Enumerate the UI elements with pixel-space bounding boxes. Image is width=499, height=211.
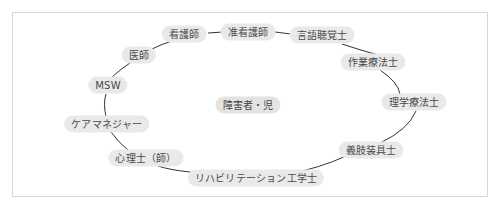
node-sagyoryohoshi: 作業療法士 (341, 54, 406, 71)
node-msw: MSW (88, 77, 127, 94)
node-rehab-kogakushi: リハビリテーション工学士 (188, 170, 324, 187)
connector-line (380, 70, 400, 94)
node-shinrishi: 心理士（師） (108, 150, 183, 167)
node-kangoshi: 看護師 (162, 26, 207, 43)
node-junkangoshi: 准看護師 (221, 24, 276, 41)
connector-line (111, 132, 129, 151)
connector-line (105, 94, 107, 117)
connector-line (112, 63, 130, 77)
node-ishi: 医師 (122, 47, 156, 64)
connector-line (158, 166, 190, 172)
node-caremanager: ケアマネジャー (64, 116, 149, 133)
center-node-persons-with-disabilities: 障害者・児 (216, 97, 281, 114)
node-rigakuryohoshi: 理学療法士 (382, 94, 447, 111)
node-gengochokakushi: 言語聴覚士 (290, 27, 355, 44)
node-gishisouguushi: 義肢装具士 (339, 142, 404, 159)
connector-line (380, 111, 416, 143)
